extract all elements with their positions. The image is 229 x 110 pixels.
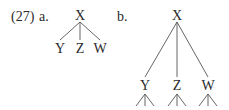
tree-a-child-z: Z — [72, 42, 88, 56]
tree-a-child-y: Y — [52, 42, 68, 56]
tree-b-child-w: W — [200, 79, 216, 93]
tree-b-child-y: Y — [137, 79, 153, 93]
subexample-b-label: b. — [117, 10, 128, 24]
tree-b-root: X — [169, 9, 185, 23]
tree-a-root: X — [72, 9, 88, 23]
tree-b-child-z: Z — [169, 79, 185, 93]
subexample-a-label: a. — [39, 10, 49, 24]
tree-a-child-w: W — [92, 42, 108, 56]
tree-branches — [0, 0, 229, 110]
example-number: (27) — [11, 10, 34, 24]
